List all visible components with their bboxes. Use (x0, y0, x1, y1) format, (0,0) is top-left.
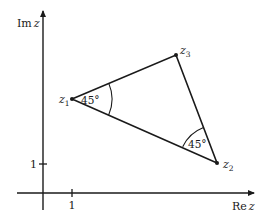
complex-plane-diagram: 1 1 Imz Rez 45° 45° z1 z3 z2 (0, 0, 267, 219)
vertex-z2 (215, 161, 219, 165)
x-axis-label: Rez (232, 200, 255, 213)
x-tick-label: 1 (69, 199, 76, 212)
angle-label-z1: 45° (81, 94, 100, 106)
vertex-z1 (70, 97, 74, 101)
angle-label-z2: 45° (188, 138, 207, 150)
vertex-z3 (174, 53, 178, 57)
y-tick-label: 1 (30, 158, 37, 171)
angle-arc-z1 (109, 83, 112, 115)
y-axis-label: Imz (17, 17, 40, 30)
point-label-z1: z1 (58, 93, 70, 108)
point-label-z3: z3 (179, 44, 191, 59)
point-label-z2: z2 (222, 158, 234, 173)
